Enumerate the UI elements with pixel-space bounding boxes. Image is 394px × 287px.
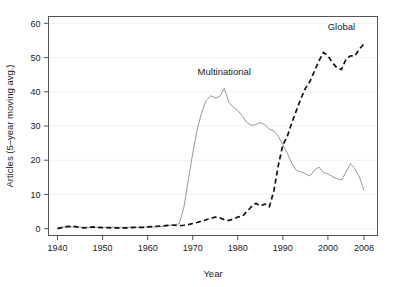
x-ticklabel-1980: 1980: [228, 243, 248, 253]
x-axis-title: Year: [203, 268, 222, 279]
line-chart: 19401950196019701980199020002008 0102030…: [0, 0, 394, 287]
y-ticklabel-50: 50: [30, 53, 40, 63]
x-ticklabel-1970: 1970: [183, 243, 203, 253]
y-ticklabel-0: 0: [35, 224, 40, 234]
x-ticklabel-1950: 1950: [93, 243, 113, 253]
series-label-multinational: Multinational: [198, 66, 251, 77]
y-ticklabel-10: 10: [30, 190, 40, 200]
x-ticklabel-1940: 1940: [47, 243, 67, 253]
y-axis-title: Articles (5–year moving avg.): [4, 64, 15, 187]
y-ticklabel-20: 20: [30, 155, 40, 165]
y-ticklabel-30: 30: [30, 121, 40, 131]
x-ticklabel-1990: 1990: [273, 243, 293, 253]
y-ticklabel-40: 40: [30, 87, 40, 97]
series-label-global: Global: [328, 21, 355, 32]
x-ticklabel-2008: 2008: [354, 243, 374, 253]
y-ticklabel-60: 60: [30, 19, 40, 29]
x-ticklabel-1960: 1960: [138, 243, 158, 253]
x-ticklabel-2000: 2000: [318, 243, 338, 253]
chart-figure: 19401950196019701980199020002008 0102030…: [0, 0, 394, 287]
